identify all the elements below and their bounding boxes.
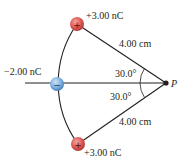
negative-charge-middle: −: [50, 77, 64, 91]
point-p-dot: [163, 80, 168, 85]
charge-diagram: P + +3.00 nC − −2.00 nC + +3.00 nC 4.00 …: [0, 0, 190, 165]
positive-charge-top: +: [70, 17, 84, 31]
distance-label-bottom: 4.00 cm: [119, 116, 151, 127]
positive-charge-bottom: +: [71, 137, 85, 151]
middle-charge-label: −2.00 nC: [4, 66, 42, 77]
angle-arc-lower: [140, 83, 145, 98]
top-charge-label: +3.00 nC: [86, 10, 124, 21]
angle-arc-upper: [140, 69, 145, 84]
bottom-charge-label: +3.00 nC: [84, 147, 122, 158]
distance-label-top: 4.00 cm: [119, 38, 151, 49]
plus-icon: +: [73, 20, 81, 30]
angle-label-upper: 30.0°: [115, 68, 137, 79]
plus-icon: +: [74, 140, 82, 150]
point-p-label: P: [170, 78, 177, 89]
minus-icon: −: [53, 80, 61, 90]
angle-label-lower: 30.0°: [110, 91, 132, 102]
